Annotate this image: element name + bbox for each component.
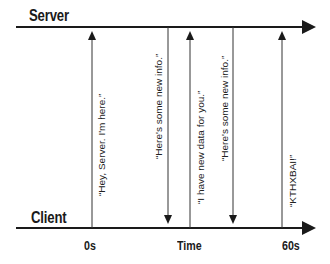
message-arrow-1 xyxy=(88,31,96,228)
arrow-up-icon xyxy=(278,31,286,40)
message-label-1: “Hey, Server. I'm here.” xyxy=(97,94,106,196)
server-lane-label: Server xyxy=(29,7,69,25)
arrowhead-icon xyxy=(302,221,316,235)
arrowhead-icon xyxy=(302,20,316,34)
message-arrow-3 xyxy=(186,31,194,228)
arrow-down-icon xyxy=(164,215,172,224)
arrow-down-icon xyxy=(229,215,237,224)
axis-end-label: 60s xyxy=(282,238,300,253)
message-arrow-2 xyxy=(164,27,172,224)
message-label-4: “Here's some new info.” xyxy=(220,56,229,161)
arrow-up-icon xyxy=(186,31,194,40)
message-label-3: “I have new data for you.” xyxy=(196,91,205,204)
client-lane-label: Client xyxy=(31,209,66,227)
message-arrow-4 xyxy=(229,27,237,224)
axis-start-label: 0s xyxy=(84,238,96,253)
message-label-5: “KTHXBAI!” xyxy=(288,155,297,207)
message-label-2: “Here's some new info.” xyxy=(154,54,163,159)
message-arrow-5 xyxy=(278,31,286,228)
axis-middle-label: Time xyxy=(177,238,202,253)
arrow-up-icon xyxy=(88,31,96,40)
